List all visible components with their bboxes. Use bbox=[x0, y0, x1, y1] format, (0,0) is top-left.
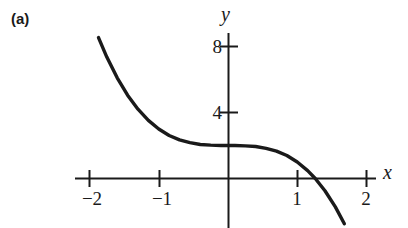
figure-panel: (a) y x −2 −1 1 2 4 8 bbox=[0, 0, 408, 228]
y-tick-label-8: 8 bbox=[213, 36, 223, 58]
x-tick-label-1: 1 bbox=[292, 188, 302, 210]
plot-area bbox=[0, 0, 408, 228]
x-tick-label--1: −1 bbox=[152, 188, 172, 210]
y-tick-label-4: 4 bbox=[213, 102, 223, 124]
x-tick-label--2: −2 bbox=[82, 188, 102, 210]
curve-path bbox=[99, 38, 345, 224]
y-axis-label: y bbox=[221, 3, 230, 26]
x-tick-label-2: 2 bbox=[361, 188, 371, 210]
panel-label: (a) bbox=[11, 10, 29, 27]
x-axis-label: x bbox=[383, 161, 392, 184]
